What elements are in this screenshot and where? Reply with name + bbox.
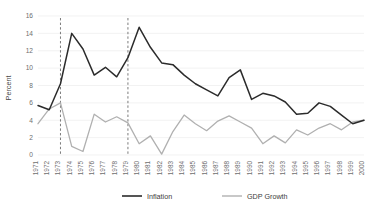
x-tick-label: 1976 xyxy=(88,161,95,176)
y-tick-label: 12 xyxy=(26,47,34,54)
x-tick-label: 1999 xyxy=(347,161,354,176)
chart-container: 0246810121416 19711972197319741975197619… xyxy=(0,0,372,207)
y-tick-label: 16 xyxy=(26,12,34,19)
x-tick-label: 1998 xyxy=(336,161,343,176)
x-tick-label: 1974 xyxy=(66,161,73,176)
x-tick-label: 1984 xyxy=(178,161,185,176)
y-tick-label: 8 xyxy=(29,82,33,89)
x-tick-label: 1995 xyxy=(302,161,309,176)
x-tick-label: 1973 xyxy=(54,161,61,176)
y-axis-label: Percent xyxy=(4,76,13,101)
x-tick-label: 1978 xyxy=(111,161,118,176)
x-axis-ticks: 1971197219731974197519761977197819791980… xyxy=(32,161,365,176)
y-tick-label: 10 xyxy=(26,64,34,71)
x-tick-label: 1983 xyxy=(167,161,174,176)
x-tick-label: 1985 xyxy=(189,161,196,176)
legend-label-inflation: Inflation xyxy=(147,192,172,201)
x-tick-label: 1979 xyxy=(122,161,129,176)
x-tick-label: 1992 xyxy=(268,161,275,176)
x-tick-label: 1980 xyxy=(133,161,140,176)
x-tick-label: 1991 xyxy=(257,161,264,176)
legend-label-gdp-growth: GDP Growth xyxy=(247,192,288,201)
y-tick-label: 14 xyxy=(26,30,34,37)
y-tick-label: 4 xyxy=(29,117,33,124)
x-tick-label: 1988 xyxy=(223,161,230,176)
data-series xyxy=(38,27,364,154)
x-tick-label: 1981 xyxy=(144,161,151,176)
line-chart: 0246810121416 19711972197319741975197619… xyxy=(0,0,372,207)
gridlines xyxy=(38,16,364,155)
x-tick-label: 1977 xyxy=(99,161,106,176)
y-tick-label: 6 xyxy=(29,99,33,106)
x-tick-label: 1972 xyxy=(43,161,50,176)
x-tick-label: 1975 xyxy=(77,161,84,176)
x-tick-label: 1997 xyxy=(324,161,331,176)
y-tick-label: 2 xyxy=(29,134,33,141)
x-tick-label: 1989 xyxy=(234,161,241,176)
x-tick-label: 1994 xyxy=(291,161,298,176)
x-tick-label: 1990 xyxy=(246,161,253,176)
x-tick-label: 1987 xyxy=(212,161,219,176)
x-tick-label: 1993 xyxy=(279,161,286,176)
x-tick-label: 1996 xyxy=(313,161,320,176)
x-tick-label: 1982 xyxy=(156,161,163,176)
x-tick-label: 1986 xyxy=(201,161,208,176)
x-tick-label: 2000 xyxy=(358,161,365,176)
chart-legend: InflationGDP Growth xyxy=(122,192,288,201)
x-tick-label: 1971 xyxy=(32,161,39,176)
y-tick-label: 0 xyxy=(29,151,33,158)
series-line-gdp-growth xyxy=(38,103,364,154)
y-axis-ticks: 0246810121416 xyxy=(26,12,34,158)
series-line-inflation xyxy=(38,27,364,123)
